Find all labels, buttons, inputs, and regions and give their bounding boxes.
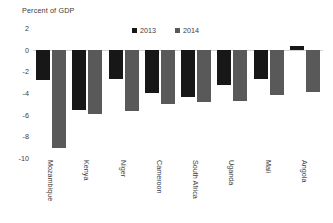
x-axis-label-cell: Kenya — [69, 158, 105, 223]
x-axis-tick-label: Angola — [299, 160, 308, 182]
x-axis-label-cell: Mozambique — [33, 158, 69, 223]
bar-mozambique-2014[interactable] — [52, 50, 66, 149]
bar-group — [178, 28, 214, 158]
x-axis-label-cell: Niger — [106, 158, 142, 223]
chart-axis-title: Percent of GDP — [22, 6, 74, 15]
bar-group — [287, 28, 323, 158]
plot-area: 20-2-4-6-8-10 — [33, 28, 323, 158]
bar-group — [69, 28, 105, 158]
y-axis-tick-label: 0 — [25, 45, 29, 54]
bar-uganda-2013[interactable] — [217, 50, 231, 86]
x-axis-tick-label: Mali — [263, 160, 272, 173]
bar-group — [106, 28, 142, 158]
bar-south-africa-2013[interactable] — [181, 50, 195, 98]
bar-kenya-2013[interactable] — [72, 50, 86, 111]
bar-kenya-2014[interactable] — [88, 50, 102, 114]
bar-group — [214, 28, 250, 158]
bar-cameroon-2014[interactable] — [161, 50, 175, 104]
x-axis-tick-label: Cameroon — [154, 160, 163, 194]
bar-mali-2014[interactable] — [270, 50, 284, 96]
x-axis-tick-label: Mozambique — [46, 160, 55, 201]
bar-niger-2014[interactable] — [125, 50, 139, 112]
bar-angola-2013[interactable] — [290, 46, 304, 49]
x-axis-label-cell: Mali — [251, 158, 287, 223]
chart-container: Percent of GDP 2013 2014 20-2-4-6-8-10 M… — [0, 0, 333, 223]
x-axis-tick-label: Kenya — [82, 160, 91, 180]
y-axis-tick-label: -6 — [23, 110, 29, 119]
bar-uganda-2014[interactable] — [233, 50, 247, 101]
bar-niger-2013[interactable] — [109, 50, 123, 79]
x-axis-label-cell: Angola — [287, 158, 323, 223]
x-axis-tick-label: Uganda — [227, 160, 236, 185]
bar-mozambique-2013[interactable] — [36, 50, 50, 80]
x-axis-label-cell: South Africa — [178, 158, 214, 223]
bar-groups — [33, 28, 323, 158]
x-axis-tick-label: Niger — [118, 160, 127, 177]
bar-group — [142, 28, 178, 158]
bar-group — [33, 28, 69, 158]
bar-group — [251, 28, 287, 158]
y-axis-tick-label: 2 — [25, 24, 29, 33]
bar-cameroon-2013[interactable] — [145, 50, 159, 93]
y-axis-tick-label: -2 — [23, 67, 29, 76]
bar-angola-2014[interactable] — [306, 50, 320, 92]
x-axis-tick-label: South Africa — [191, 160, 200, 199]
x-axis-label-cell: Uganda — [214, 158, 250, 223]
y-axis-tick-label: -8 — [23, 132, 29, 141]
x-axis-label-cell: Cameroon — [142, 158, 178, 223]
bar-mali-2013[interactable] — [254, 50, 268, 79]
y-axis-tick-label: -10 — [19, 154, 29, 163]
bar-south-africa-2014[interactable] — [197, 50, 211, 102]
y-axis-tick-label: -4 — [23, 89, 29, 98]
x-axis-labels: MozambiqueKenyaNigerCameroonSouth Africa… — [33, 158, 323, 223]
